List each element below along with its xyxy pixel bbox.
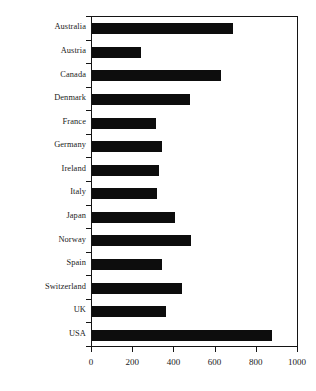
category-label: UK xyxy=(0,306,86,314)
bar-chart: AustraliaAustriaCanadaDenmarkFranceGerma… xyxy=(0,0,316,391)
bar xyxy=(92,94,190,105)
bar xyxy=(92,330,272,341)
value-axis-tick xyxy=(132,347,133,352)
category-label: Australia xyxy=(0,23,86,31)
bar xyxy=(92,188,157,199)
bar xyxy=(92,23,233,34)
category-label: Italy xyxy=(0,188,86,196)
value-axis-tick xyxy=(173,347,174,352)
value-axis-tick-label: 1000 xyxy=(277,357,316,367)
bar xyxy=(92,70,221,81)
bar xyxy=(92,165,159,176)
value-axis-tick-label: 200 xyxy=(112,357,152,367)
value-axis-tick-label: 0 xyxy=(71,357,111,367)
bar xyxy=(92,212,175,223)
category-label: France xyxy=(0,118,86,126)
value-axis-tick xyxy=(256,347,257,352)
value-axis-tick-label: 600 xyxy=(195,357,235,367)
bar xyxy=(92,118,156,129)
bar xyxy=(92,283,182,294)
bars-layer xyxy=(92,17,298,347)
category-label: Ireland xyxy=(0,165,86,173)
category-label: USA xyxy=(0,330,86,338)
category-label: Japan xyxy=(0,212,86,220)
value-axis-tick xyxy=(297,347,298,352)
category-label: Spain xyxy=(0,259,86,267)
category-label: Norway xyxy=(0,236,86,244)
value-axis-tick xyxy=(91,347,92,352)
value-axis: 02004006008001000 xyxy=(91,347,299,391)
bar xyxy=(92,47,141,58)
value-axis-tick-label: 800 xyxy=(236,357,276,367)
category-axis-labels: AustraliaAustriaCanadaDenmarkFranceGerma… xyxy=(0,16,86,347)
bar xyxy=(92,306,166,317)
value-axis-tick-label: 400 xyxy=(153,357,193,367)
value-axis-tick xyxy=(215,347,216,352)
category-label: Germany xyxy=(0,141,86,149)
category-label: Austria xyxy=(0,47,86,55)
bar xyxy=(92,141,162,152)
category-label: Canada xyxy=(0,71,86,79)
bar xyxy=(92,235,191,246)
bar xyxy=(92,259,162,270)
category-label: Denmark xyxy=(0,94,86,102)
category-label: Switzerland xyxy=(0,283,86,291)
